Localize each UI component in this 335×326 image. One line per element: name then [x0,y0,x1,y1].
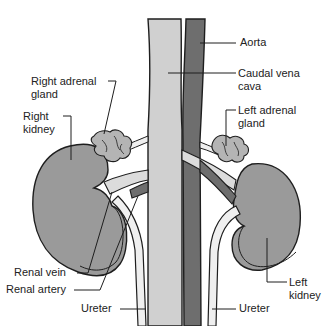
label-right-adrenal-gland-line2: gland [31,88,96,101]
label-right-kidney-line2: kidney [23,123,55,136]
left-kidney [232,164,300,271]
label-left-kidney: Left kidney [289,276,321,302]
label-caudal-vena-cava-line2: cava [238,80,300,93]
label-right-adrenal-gland-line1: Right adrenal [31,75,96,88]
label-ureter-left-side: Ureter [81,302,112,315]
label-right-adrenal-gland: Right adrenal gland [31,75,96,101]
label-left-kidney-line1: Left [289,276,321,289]
label-right-kidney-line1: Right [23,110,55,123]
left-ureter [208,206,240,326]
label-left-adrenal-gland-line2: gland [238,117,296,130]
label-left-adrenal-gland-line1: Left adrenal [238,104,296,117]
left-adrenal-gland [212,135,249,162]
label-renal-vein: Renal vein [14,266,66,279]
label-ureter-right-side: Ureter [239,302,270,315]
label-right-kidney: Right kidney [23,110,55,136]
label-left-kidney-line2: kidney [289,289,321,302]
label-caudal-vena-cava-line1: Caudal vena [238,67,300,80]
label-caudal-vena-cava: Caudal vena cava [238,67,300,93]
caudal-vena-cava [148,19,182,326]
label-aorta: Aorta [240,36,266,49]
label-renal-artery: Renal artery [6,283,66,296]
label-left-adrenal-gland: Left adrenal gland [238,104,296,130]
right-kidney [33,144,127,276]
